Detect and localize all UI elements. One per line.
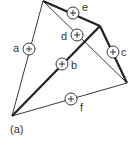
label-a: a	[13, 43, 19, 54]
label-d: d	[61, 31, 67, 42]
label-f: f	[80, 102, 83, 113]
label-b: b	[71, 60, 77, 71]
node-d-icon	[71, 29, 83, 41]
node-c-icon	[107, 46, 119, 58]
figure-caption: (a)	[10, 124, 23, 135]
node-e-icon	[67, 7, 79, 19]
label-c: c	[121, 47, 127, 58]
label-e: e	[82, 2, 88, 13]
node-a-icon	[23, 43, 35, 55]
node-f-icon	[65, 93, 77, 105]
edge-b	[12, 26, 100, 116]
node-b-icon	[56, 58, 68, 70]
